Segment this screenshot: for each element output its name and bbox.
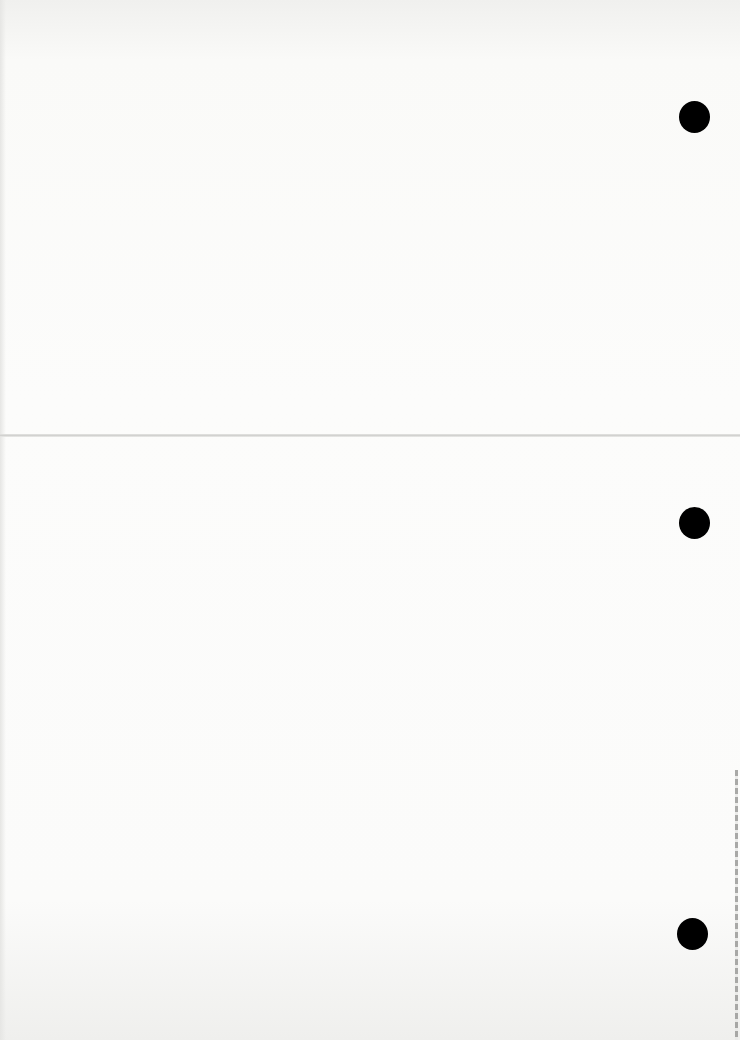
fold-line — [0, 434, 740, 437]
right-edge-strip — [735, 770, 738, 1040]
punch-hole-bottom — [677, 918, 708, 950]
scanned-page — [0, 0, 740, 1040]
punch-hole-top — [679, 101, 710, 133]
left-edge-shadow — [0, 0, 6, 1040]
punch-hole-middle — [679, 507, 710, 539]
